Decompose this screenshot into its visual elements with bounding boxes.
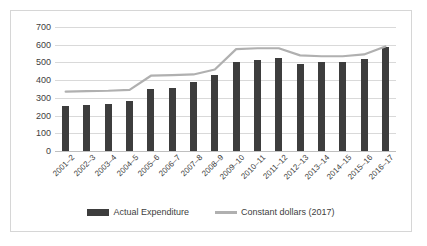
x-axis-tick-label: 2007–8 bbox=[179, 153, 204, 178]
line-path bbox=[66, 46, 386, 91]
gridline-0 bbox=[55, 151, 396, 152]
line-swatch-icon bbox=[215, 211, 237, 214]
x-axis-tick-label: 2003–4 bbox=[93, 153, 118, 178]
y-axis: 0100200300400500600700 bbox=[11, 27, 51, 151]
bar-swatch-icon bbox=[87, 209, 109, 216]
legend-item-actual-expenditure: Actual Expenditure bbox=[87, 207, 189, 217]
plot-area bbox=[55, 27, 396, 151]
legend-label-constant-dollars: Constant dollars (2017) bbox=[241, 207, 335, 217]
chart-container: 0100200300400500600700 2001–22002–32003–… bbox=[10, 10, 412, 232]
x-axis-labels: 2001–22002–32003–42004–52005–62006–72007… bbox=[55, 153, 396, 205]
x-axis-tick-label: 2001–2 bbox=[51, 153, 76, 178]
legend-item-constant-dollars: Constant dollars (2017) bbox=[215, 207, 335, 217]
y-axis-tick-700: 700 bbox=[36, 22, 51, 32]
x-axis-tick-label: 2005–6 bbox=[136, 153, 161, 178]
line-series-constant-dollars bbox=[55, 27, 396, 151]
y-axis-tick-600: 600 bbox=[36, 40, 51, 50]
y-axis-tick-500: 500 bbox=[36, 57, 51, 67]
legend-label-actual-expenditure: Actual Expenditure bbox=[113, 207, 189, 217]
y-axis-tick-200: 200 bbox=[36, 111, 51, 121]
x-axis-tick-label: 2002–3 bbox=[72, 153, 97, 178]
x-axis-tick-label: 2004–5 bbox=[115, 153, 140, 178]
chart-legend: Actual Expenditure Constant dollars (201… bbox=[11, 207, 411, 217]
y-axis-tick-300: 300 bbox=[36, 93, 51, 103]
x-axis-tick-label: 2006–7 bbox=[157, 153, 182, 178]
y-axis-tick-400: 400 bbox=[36, 75, 51, 85]
y-axis-tick-100: 100 bbox=[36, 128, 51, 138]
y-axis-tick-0: 0 bbox=[46, 146, 51, 156]
